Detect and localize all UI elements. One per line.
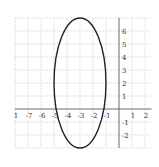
x-tick-label: -4 [65, 112, 72, 120]
x-tick-label: 2 [144, 112, 148, 120]
x-tick-label: 1 [131, 112, 135, 120]
x-tick-label: 1 [14, 112, 18, 120]
y-tick-label: 5 [122, 41, 126, 49]
y-tick-label: 2 [122, 80, 126, 88]
x-tick-label: -1 [104, 112, 111, 120]
x-tick-label: -3 [78, 112, 85, 120]
y-tick-label: -1 [122, 119, 129, 127]
y-tick-label: 4 [122, 54, 127, 62]
x-tick-label: -6 [39, 112, 46, 120]
ellipse-graph: 1-7-6-5-4-3-2-112 654321-1-2 [0, 0, 159, 167]
y-tick-label: 6 [122, 28, 127, 36]
y-tick-label: 1 [122, 93, 126, 101]
grid-lines [15, 18, 152, 148]
y-tick-label: -2 [122, 132, 129, 140]
y-axis-tick-labels: 654321-1-2 [122, 28, 129, 140]
x-tick-label: -7 [26, 112, 33, 120]
y-tick-label: 3 [122, 67, 126, 75]
x-tick-label: -2 [91, 112, 98, 120]
